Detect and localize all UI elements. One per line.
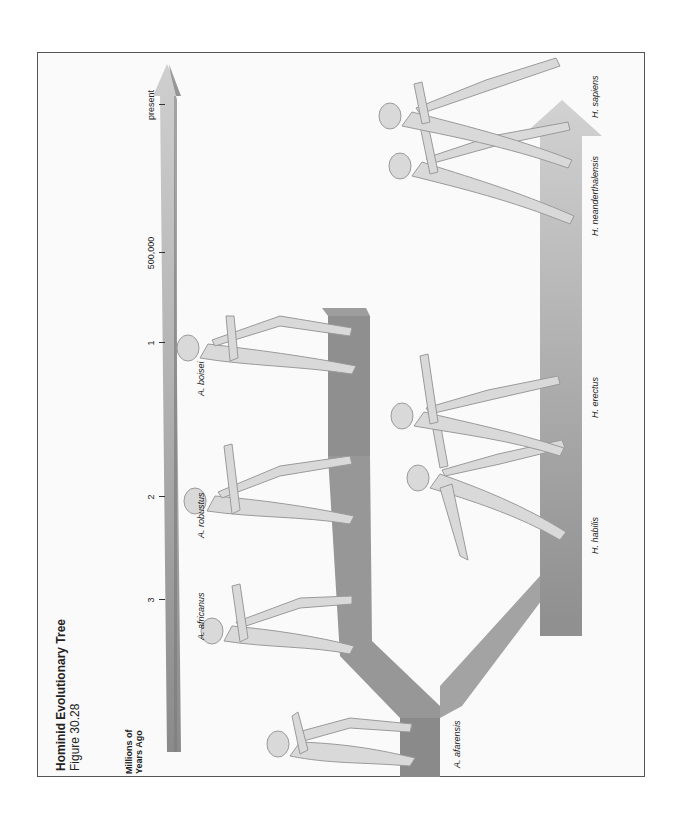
tick-mark-1 bbox=[159, 342, 165, 343]
label-a-afarensis: A. afarensis bbox=[452, 720, 462, 768]
tick-label-2: 2 bbox=[146, 494, 156, 499]
label-h-sapiens: H. sapiens bbox=[590, 75, 600, 118]
tick-mark-3 bbox=[159, 599, 165, 600]
label-a-robustus: A. robustus bbox=[196, 492, 206, 538]
label-h-habilis: H. habilis bbox=[590, 517, 600, 554]
timeline-arrow bbox=[153, 64, 181, 752]
tick-label-3: 3 bbox=[146, 597, 156, 602]
tick-mark-present bbox=[159, 104, 165, 105]
label-a-boisei: A. boisei bbox=[196, 361, 206, 396]
tick-label-present: present bbox=[146, 90, 156, 120]
figure-canvas: Hominid Evolutionary Tree Figure 30.28 M… bbox=[0, 0, 679, 836]
figure-h-erectus bbox=[391, 354, 564, 456]
tick-label-1: 1 bbox=[146, 340, 156, 345]
label-h-erectus: H. erectus bbox=[590, 377, 600, 418]
tick-label-500000: 500,000 bbox=[146, 237, 156, 270]
tick-mark-2 bbox=[159, 496, 165, 497]
tree-graphic bbox=[0, 0, 679, 836]
figure-a-africanus bbox=[201, 584, 354, 654]
label-a-africanus: A. africanus bbox=[196, 592, 206, 640]
figure-a-afarensis bbox=[267, 712, 415, 766]
label-h-neanderthalensis: H. neanderthalensis bbox=[590, 156, 600, 236]
tick-mark-500000 bbox=[159, 252, 165, 253]
